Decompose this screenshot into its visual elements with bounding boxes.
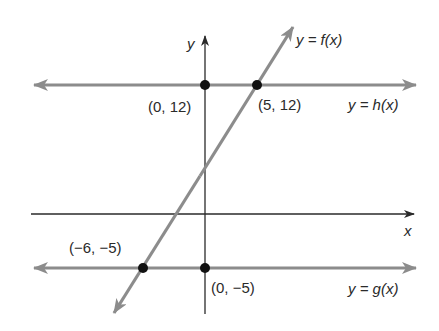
- g-label: y = g(x): [347, 280, 398, 297]
- y-axis-label: y: [186, 35, 196, 52]
- line-f-lower: [114, 176, 200, 313]
- point-m6-m5: [138, 263, 148, 273]
- point-label-5-12: (5, 12): [258, 96, 301, 113]
- point-5-12: [252, 80, 262, 90]
- point-0-12: [200, 80, 210, 90]
- f-label: y = f(x): [295, 31, 342, 48]
- point-label-0-12: (0, 12): [148, 98, 191, 115]
- point-0-m5: [200, 263, 210, 273]
- point-label-m6-m5: (−6, −5): [69, 239, 122, 256]
- h-label: y = h(x): [347, 96, 398, 113]
- x-axis-label: x: [403, 222, 412, 239]
- point-label-0-m5: (0, −5): [211, 279, 255, 296]
- function-graph: y x y = f(x) y = h(x) y = g(x) (0, 12) (…: [0, 0, 439, 331]
